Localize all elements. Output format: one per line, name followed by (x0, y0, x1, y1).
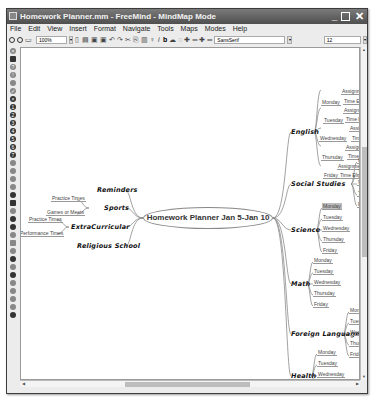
bubble-icon[interactable]: ✚ (199, 36, 205, 43)
menu-format[interactable]: Format (94, 25, 116, 32)
button-icon[interactable] (10, 312, 16, 318)
star-icon[interactable] (10, 232, 16, 238)
family-icon[interactable] (10, 288, 16, 294)
node-math[interactable]: Math (291, 280, 310, 288)
vertical-scrollbar[interactable]: ▲ ▼ (360, 47, 367, 380)
lock-icon[interactable] (10, 304, 16, 310)
node-math-thursday[interactable]: Thursday (313, 290, 336, 297)
cancel-icon[interactable]: × (10, 96, 16, 102)
node-foreign-tuesday[interactable]: Tuesday (349, 318, 360, 325)
root-node[interactable]: Homework Planner Jan 5-Jan 10 (143, 207, 273, 229)
menu-maps[interactable]: Maps (181, 25, 198, 32)
attach-icon[interactable] (10, 176, 16, 182)
idea-icon[interactable] (10, 80, 16, 86)
forward-arrow-icon[interactable] (10, 168, 16, 174)
node-health-tuesday[interactable]: Tuesday (317, 360, 338, 367)
question-icon[interactable]: ? (10, 64, 16, 70)
node-health-wednesday[interactable]: Wednesday (317, 371, 345, 378)
node-english-thursday[interactable]: Thursday (321, 154, 344, 161)
node-english-monday-assignment[interactable]: Assignment Due (341, 88, 360, 95)
check-icon[interactable]: ✓ (10, 88, 16, 94)
node-science-friday[interactable]: Friday (322, 247, 338, 254)
priority-1-icon[interactable]: 1 (10, 104, 16, 110)
node-sports[interactable]: Sports (104, 204, 129, 212)
back-arrow-icon[interactable] (10, 160, 16, 166)
close-button[interactable]: ✕ (354, 11, 365, 22)
horizontal-scrollbar[interactable]: ◀ ▶ (20, 380, 360, 387)
node-religious-school[interactable]: Religious School (77, 242, 140, 250)
cut-icon[interactable]: ✂ (125, 36, 131, 43)
node-math-tuesday[interactable]: Tuesday (313, 268, 334, 275)
font-family-dropdown[interactable]: ▾ (287, 36, 291, 44)
forward-icon[interactable] (17, 36, 23, 43)
flag-icon[interactable] (10, 184, 16, 190)
node-english-tuesday-time[interactable]: Time Expected (345, 116, 360, 123)
node-science-monday[interactable]: Monday (322, 203, 342, 210)
node-science[interactable]: Science (291, 226, 320, 234)
node-english-wednesday-assignment[interactable]: Assignment Due (349, 125, 360, 132)
node-health[interactable]: Health (291, 372, 316, 380)
new-icon[interactable]: ▯ (75, 36, 79, 43)
menu-navigate[interactable]: Navigate (123, 25, 151, 32)
font-family-select[interactable]: SansSerif (214, 36, 285, 44)
scroll-down-button[interactable]: ▼ (361, 374, 367, 380)
back-icon[interactable] (9, 36, 15, 43)
edit-icon[interactable] (10, 272, 16, 278)
node-extra-practice-times[interactable]: Practice Times (28, 216, 63, 223)
node-english-friday[interactable]: Friday (323, 172, 339, 179)
node-extra-performance-times[interactable]: Performance Times (20, 230, 64, 237)
menu-edit[interactable]: Edit (28, 25, 40, 32)
node-math-monday[interactable]: Monday (313, 257, 333, 264)
node-science-tuesday[interactable]: Tuesday (322, 214, 343, 221)
node-math-wednesday[interactable]: Wednesday (313, 279, 341, 286)
node-english-tuesday-assignment[interactable]: Assignment Due (343, 107, 360, 114)
menu-view[interactable]: View (47, 25, 62, 32)
priority-2-icon[interactable]: 2 (10, 112, 16, 118)
link-icon[interactable]: ◌ (178, 36, 182, 43)
bulb-icon[interactable]: ♀ (150, 36, 155, 43)
clock-icon[interactable] (10, 216, 16, 222)
zoom-input[interactable]: 100% (36, 36, 67, 44)
node-english-tuesday[interactable]: Tuesday (323, 117, 344, 124)
scroll-up-button[interactable]: ▲ (361, 47, 367, 53)
node-foreign-wednesday[interactable]: Wednesday (349, 329, 360, 336)
paste-icon[interactable]: ▥ (141, 36, 148, 43)
node-sports-games-or-meets[interactable]: Games or Meets (46, 209, 85, 216)
undo-icon[interactable]: ↶ (109, 36, 115, 43)
zoom-dropdown[interactable]: ▾ (69, 36, 73, 44)
priority-5-icon[interactable]: 5 (10, 136, 16, 142)
priority-7-icon[interactable]: 7 (10, 152, 16, 158)
node-english-monday[interactable]: Monday (321, 99, 341, 106)
font-size-select[interactable]: 12 (324, 36, 361, 44)
magnifier-icon[interactable] (10, 280, 16, 286)
node-foreign-monday[interactable]: Monday (349, 307, 360, 314)
pencil-icon[interactable] (10, 200, 16, 206)
node-english-wednesday[interactable]: Wednesday (319, 135, 347, 142)
open-icon[interactable]: ▤ (82, 36, 89, 43)
italic-icon[interactable]: i (157, 36, 161, 43)
node-science-thursday[interactable]: Thursday (322, 236, 345, 243)
edge-width-icon[interactable]: ═ (207, 36, 212, 43)
scroll-right-button[interactable]: ▶ (354, 381, 360, 387)
priority-4-icon[interactable]: 4 (10, 128, 16, 134)
node-english-wednesday-time[interactable]: Time Expected (351, 135, 360, 142)
node-english[interactable]: English (291, 128, 319, 136)
node-sports-practice-times[interactable]: Practice Times (51, 195, 86, 202)
node-english-monday-time[interactable]: Time Expected (343, 98, 360, 105)
minimize-button[interactable]: _ (329, 11, 340, 22)
node-english-thursday-assignment[interactable]: Assignment Due (345, 144, 360, 151)
mindmap-canvas[interactable]: Homework Planner Jan 5-Jan 10 Reminders … (20, 47, 360, 380)
print-icon[interactable]: ▭ (25, 36, 32, 43)
bold-icon[interactable]: b (163, 36, 167, 43)
menu-modes[interactable]: Modes (205, 25, 226, 32)
font-size-dropdown[interactable]: ▾ (363, 36, 367, 44)
bell-icon[interactable] (10, 248, 16, 254)
node-math-friday[interactable]: Friday (313, 301, 329, 308)
node-health-monday[interactable]: Monday (317, 349, 337, 356)
remove-icon[interactable]: × (10, 48, 16, 54)
node-foreign-friday[interactable]: Friday (349, 351, 360, 358)
smiley-icon[interactable] (10, 208, 16, 214)
node-social-studies[interactable]: Social Studies (291, 180, 345, 188)
house-icon[interactable] (10, 296, 16, 302)
menu-file[interactable]: File (10, 25, 21, 32)
